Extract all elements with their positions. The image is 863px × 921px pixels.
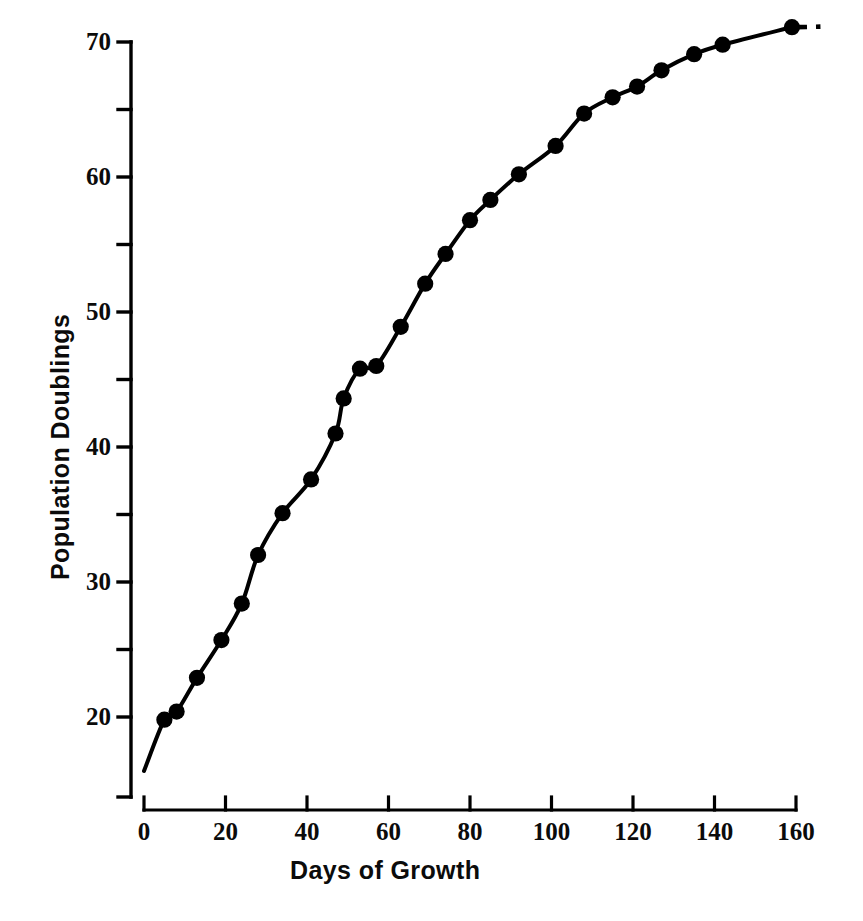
y-tick-label: 70 [86, 28, 111, 56]
data-point [437, 246, 453, 262]
data-point [417, 276, 433, 292]
x-tick-label: 60 [376, 818, 401, 846]
data-point [327, 425, 343, 441]
x-tick-label: 40 [295, 818, 320, 846]
y-axis-title: Population Doublings [46, 314, 75, 580]
data-point [576, 105, 592, 121]
x-axis-title: Days of Growth [290, 856, 480, 885]
data-point [274, 505, 290, 521]
data-point [629, 78, 645, 94]
plot-area [0, 0, 863, 921]
y-tick-label: 60 [86, 163, 111, 191]
data-point [605, 89, 621, 105]
data-point [482, 192, 498, 208]
x-tick-label: 120 [614, 818, 652, 846]
x-tick-label: 80 [458, 818, 483, 846]
y-tick-label: 50 [86, 298, 111, 326]
data-curve [144, 27, 792, 771]
x-tick-label: 20 [213, 818, 238, 846]
x-tick-label: 100 [533, 818, 571, 846]
data-point [715, 37, 731, 53]
data-point [303, 471, 319, 487]
data-point [686, 46, 702, 62]
data-point [189, 670, 205, 686]
data-points [156, 19, 800, 728]
data-point [653, 62, 669, 78]
x-axis [144, 797, 796, 810]
y-tick-label: 30 [86, 568, 111, 596]
data-point [784, 19, 800, 35]
x-tick-label: 140 [696, 818, 734, 846]
x-tick-label: 160 [777, 818, 815, 846]
data-point [547, 138, 563, 154]
data-point [336, 390, 352, 406]
data-point [169, 704, 185, 720]
data-point [393, 319, 409, 335]
y-tick-label: 20 [86, 703, 111, 731]
data-point [234, 596, 250, 612]
x-tick-label: 0 [138, 818, 151, 846]
data-point [213, 632, 229, 648]
y-tick-label: 40 [86, 433, 111, 461]
data-point [462, 212, 478, 228]
data-point [511, 166, 527, 182]
data-point [368, 358, 384, 374]
data-point [250, 547, 266, 563]
y-axis [118, 42, 131, 797]
data-point [352, 361, 368, 377]
figure-population-doublings: Population Doublings Days of Growth 2030… [0, 0, 863, 921]
